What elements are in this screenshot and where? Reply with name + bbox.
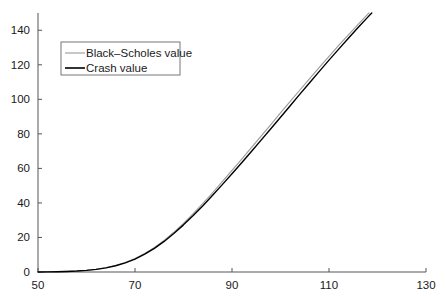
chart-legend[interactable]: Black–Scholes valueCrash value <box>61 42 192 75</box>
y-tick-label: 80 <box>17 128 30 140</box>
legend-label: Crash value <box>86 62 147 74</box>
y-tick-label: 100 <box>11 93 30 105</box>
y-tick-label: 0 <box>24 266 30 278</box>
y-tick-label: 60 <box>17 162 30 174</box>
y-axis-ticks <box>38 30 42 272</box>
x-axis-tick-labels: 507090110130 <box>32 279 436 291</box>
y-tick-label: 120 <box>11 59 30 71</box>
x-tick-label: 90 <box>226 279 239 291</box>
x-tick-label: 50 <box>32 279 45 291</box>
y-tick-label: 20 <box>17 231 30 243</box>
y-tick-label: 40 <box>17 197 30 209</box>
y-axis-tick-labels: 020406080100120140 <box>11 24 30 278</box>
x-tick-label: 70 <box>129 279 142 291</box>
y-tick-label: 140 <box>11 24 30 36</box>
x-tick-label: 110 <box>320 279 338 291</box>
line-chart-plot: 507090110130 020406080100120140 Black–Sc… <box>0 0 446 297</box>
chart-figure: 507090110130 020406080100120140 Black–Sc… <box>0 0 446 297</box>
legend-label: Black–Scholes value <box>86 47 192 59</box>
x-tick-label: 130 <box>416 279 435 291</box>
